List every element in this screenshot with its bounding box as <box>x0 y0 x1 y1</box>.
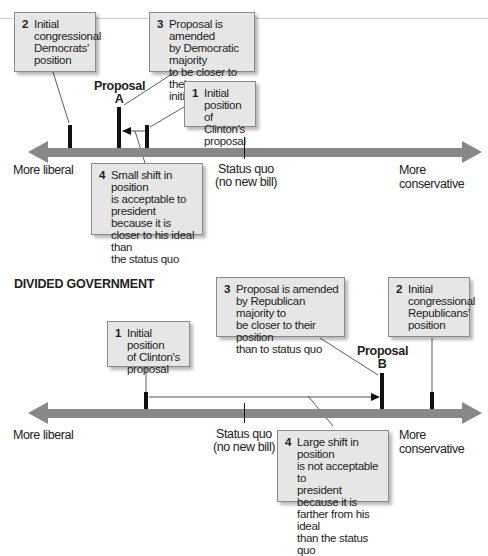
more-liberal-label: More liberal <box>13 428 74 442</box>
proposal-b-marker <box>380 373 384 409</box>
callout-number: 3 <box>224 283 230 295</box>
callout-number: 2 <box>396 283 402 295</box>
callout-text: Initial congressional Republicans' posit… <box>408 283 465 331</box>
status-quo-label: Status quo (no new bill) <box>206 428 282 454</box>
axis-arrow-left <box>28 402 48 424</box>
callout-1-clinton-initial-position: 1 Initial position of Clinton's proposal <box>107 321 190 367</box>
republicans-position-marker <box>430 392 434 409</box>
callout-4-large-shift: 4 Large shift in position is not accepta… <box>277 430 389 502</box>
callout-2-republicans-position: 2 Initial congressional Republicans' pos… <box>388 277 470 337</box>
ideology-axis-bottom <box>46 409 464 418</box>
status-quo-marker <box>244 403 245 423</box>
callout-text: Large shift in position is not acceptabl… <box>297 436 384 556</box>
callout-number: 4 <box>285 436 291 448</box>
callout-text: Proposal is amended by Republican majori… <box>236 283 340 355</box>
more-conservative-label: More conservative <box>399 428 488 456</box>
callout-number: 1 <box>115 327 121 339</box>
proposal-b-label: Proposal B <box>357 345 407 371</box>
callout-3-republican-amendment: 3 Proposal is amended by Republican majo… <box>216 277 345 337</box>
clinton-initial-marker <box>144 392 148 409</box>
axis-arrow-right <box>462 402 482 424</box>
callout-text: Initial position of Clinton's proposal <box>127 327 185 375</box>
